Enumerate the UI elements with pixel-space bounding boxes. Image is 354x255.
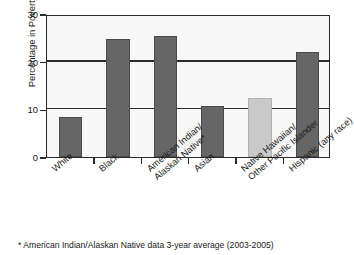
bar-2 — [154, 36, 178, 157]
y-tick-label-20: 20 — [12, 58, 38, 68]
y-tick-label-30: 30 — [12, 10, 38, 20]
chart-footnote: * American Indian/Alaskan Native data 3-… — [18, 240, 274, 251]
y-tick-label-10: 10 — [12, 105, 38, 115]
x-tick-mark-1 — [93, 158, 94, 164]
x-tick-mark-3 — [188, 158, 189, 164]
bar-1 — [106, 39, 130, 157]
y-tick-label-0: 0 — [12, 153, 38, 163]
bar-0 — [59, 117, 83, 157]
x-tick-mark-4 — [235, 158, 236, 164]
x-tick-mark-5 — [283, 158, 284, 164]
x-tick-mark-2 — [141, 158, 142, 164]
